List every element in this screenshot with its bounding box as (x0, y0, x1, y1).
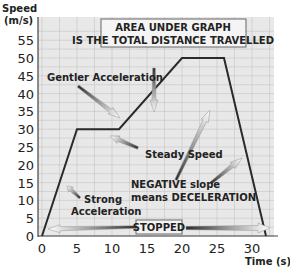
x-tick-label: 10 (104, 241, 121, 256)
y-tick-label: 40 (17, 87, 34, 102)
y-tick-label: 30 (17, 122, 34, 137)
y-tick-label: 45 (17, 69, 34, 84)
y-tick-label: 55 (17, 33, 34, 48)
y-tick-label: 50 (17, 51, 34, 66)
x-tick-label: 0 (38, 241, 46, 256)
y-tick-label: 0 (26, 229, 34, 244)
speed-time-chart: 0510152025303540455055 051015202530 Spee… (0, 0, 290, 270)
y-tick-label: 5 (26, 211, 34, 226)
x-axis-label: Time (s) (245, 256, 290, 267)
x-axis-tick-labels: 051015202530 (38, 241, 260, 256)
x-tick-label: 15 (139, 241, 156, 256)
x-tick-label: 30 (244, 241, 261, 256)
plot-background (38, 17, 274, 236)
y-tick-label: 10 (17, 193, 34, 208)
y-axis-label-line: (m/s) (4, 15, 33, 26)
deceleration-label-line-1: NEGATIVE slope (131, 179, 220, 190)
y-tick-label: 25 (17, 140, 34, 155)
y-axis-tick-labels: 0510152025303540455055 (17, 33, 34, 244)
deceleration-label-line-2: means DECELERATION (131, 192, 256, 203)
x-axis-label-text: Time (s) (245, 256, 290, 267)
y-tick-label: 20 (17, 158, 34, 173)
steady-speed-label: Steady Speed (145, 149, 223, 160)
area-annotation-line-1: AREA UNDER GRAPH (115, 22, 231, 33)
y-tick-label: 35 (17, 104, 34, 119)
y-axis-label: Speed(m/s) (2, 3, 37, 26)
y-tick-label: 15 (17, 176, 34, 191)
x-tick-label: 5 (73, 241, 81, 256)
gentler-acceleration-label: Gentler Acceleration (47, 72, 163, 83)
strong-acceleration-label-line-2: Acceleration (71, 206, 141, 217)
plot-area (38, 17, 274, 236)
x-tick-label: 25 (209, 241, 226, 256)
y-axis-label-line: Speed (2, 3, 37, 14)
strong-acceleration-label-line-1: Strong (84, 194, 122, 205)
x-tick-label: 20 (174, 241, 191, 256)
stopped-label: STOPPED (133, 222, 185, 233)
area-annotation-line-2: IS THE TOTAL DISTANCE TRAVELLED (72, 35, 274, 46)
